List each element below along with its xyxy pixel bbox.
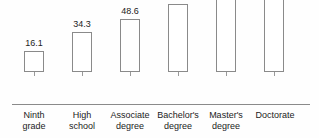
bar-value-label: 48.6 bbox=[111, 6, 149, 16]
x-axis-line bbox=[12, 104, 310, 105]
axis-tick bbox=[274, 72, 275, 76]
category-label-line1: Associate bbox=[110, 110, 149, 120]
axis-tick bbox=[82, 72, 83, 76]
axis-tick bbox=[226, 72, 227, 76]
bar bbox=[72, 32, 92, 72]
category-label-line1: High bbox=[73, 110, 92, 120]
category-label-line1: Ninth bbox=[23, 110, 44, 120]
category-label: Doctorate bbox=[246, 110, 304, 121]
bar-value-label: 16.1 bbox=[15, 38, 53, 48]
plot-area: 16.1 34.3 48.6 62.1 71.0 bbox=[0, 0, 319, 106]
category-label-line2: degree bbox=[198, 121, 254, 132]
bar-chart: 16.1 34.3 48.6 62.1 71.0 bbox=[0, 0, 319, 138]
axis-tick bbox=[34, 72, 35, 76]
bar bbox=[120, 19, 140, 72]
bar bbox=[264, 0, 284, 72]
category-label-line1: Master's bbox=[209, 110, 243, 120]
bar-value-label: 34.3 bbox=[63, 19, 101, 29]
bar bbox=[168, 4, 188, 72]
axis-tick bbox=[130, 72, 131, 76]
bar bbox=[216, 0, 236, 72]
category-label-line1: Doctorate bbox=[255, 110, 294, 120]
category-label-line1: Bachelor's bbox=[157, 110, 199, 120]
bar-value-label: 62.1 bbox=[159, 0, 197, 1]
axis-tick bbox=[178, 72, 179, 76]
bar bbox=[24, 51, 44, 72]
